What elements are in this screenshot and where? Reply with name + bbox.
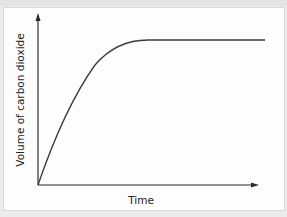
y-axis-label: Volume of carbon dioxide <box>14 30 26 170</box>
co2-volume-curve <box>38 40 265 185</box>
chart-plot <box>0 0 287 217</box>
y-axis-arrow-icon <box>36 13 41 21</box>
x-axis-arrow-icon <box>251 183 259 188</box>
x-axis-label: Time <box>121 194 161 206</box>
